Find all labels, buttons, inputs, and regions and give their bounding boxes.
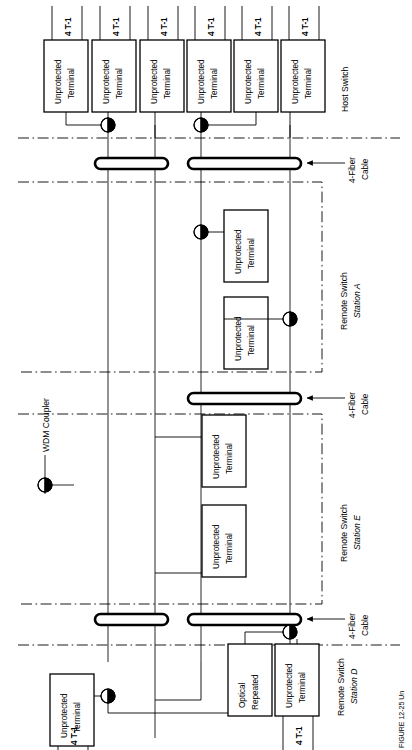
terminal-label-line1: Unprotected <box>212 524 221 569</box>
fiber-cable-3-capsule-right <box>188 614 301 625</box>
fiber-cable-3-capsule-left <box>95 614 168 625</box>
terminal-label-line2: Terminal <box>225 533 234 564</box>
terminal-label-line1: Unprotected <box>285 663 294 708</box>
terminal-label-line2: Terminal <box>257 68 266 99</box>
fiber-cable-1-group: 4-Fiber Cable <box>95 157 370 183</box>
station-d-label-line2: Station D <box>349 669 359 704</box>
tributary-label: 4 T-1 <box>254 17 263 36</box>
station-e-boundary <box>18 414 322 604</box>
tributary-label: 4 T-1 <box>64 17 73 36</box>
wdm-coupler-symbol <box>38 478 52 492</box>
wdm-coupler-station-d-2[interactable] <box>283 625 297 639</box>
terminal-label-line2: Terminal <box>225 443 234 474</box>
terminal-label-line1: Unprotected <box>291 59 300 104</box>
terminal-label-line1: Unprotected <box>244 59 253 104</box>
tributary-label: 4 T-1 <box>70 726 79 745</box>
terminal-station-a-2[interactable]: Unprotected Terminal <box>224 297 297 369</box>
wdm-coupler-host-1[interactable] <box>101 118 115 132</box>
cable-3-label-line2: Cable <box>361 614 370 636</box>
fiber-cable-capsule-left <box>95 158 168 169</box>
tributary-label: 4 T-1 <box>160 17 169 36</box>
terminal-host-4[interactable]: Unprotected Terminal 4 T-1 <box>187 6 231 120</box>
optical-repeater-label-line1: Optical <box>238 682 247 708</box>
cable-3-label-line1: 4-Fiber <box>348 613 357 639</box>
station-e-label-line2: Station E <box>352 515 362 550</box>
diagram-canvas: Unprotected Terminal 4 T-1 Unprotected T… <box>0 0 412 750</box>
tributary-station-d-1: 4 T-1 <box>70 726 79 745</box>
terminal-label-line1: Unprotected <box>150 59 159 104</box>
terminal-label-line1: Unprotected <box>102 59 111 104</box>
terminal-label-line2: Terminal <box>304 68 313 99</box>
terminal-station-a-1[interactable]: Unprotected Terminal <box>208 210 268 282</box>
station-e-group: Unprotected Terminal Unprotected Termina… <box>18 414 362 604</box>
cable-1-label-line1: 4-Fiber <box>348 157 357 183</box>
optical-repeater-label-line2: Repeated <box>251 674 260 710</box>
wdm-coupler-station-a-2[interactable] <box>283 312 297 326</box>
network-topology-svg: Unprotected Terminal 4 T-1 Unprotected T… <box>0 0 412 750</box>
terminal-host-6[interactable]: Unprotected Terminal 4 T-1 <box>281 6 325 138</box>
terminal-host-2[interactable]: Unprotected Terminal 4 T-1 <box>92 6 136 120</box>
host-switch-label: Host Switch <box>340 66 350 112</box>
station-d-group: Unprotected Terminal Optical Repeated Un… <box>50 625 359 750</box>
terminal-label-line1: Unprotected <box>212 434 221 479</box>
station-d-label-line1: Remote Switch <box>336 658 346 716</box>
station-a-group: Unprotected Terminal Unprotected Termina… <box>18 182 362 372</box>
cable-2-label-line2: Cable <box>361 393 370 415</box>
tributary-label: 4 T-1 <box>112 17 121 36</box>
terminal-station-d-2[interactable]: Unprotected Terminal 4 T-1 <box>275 639 319 750</box>
terminal-label-line2: Terminal <box>210 68 219 99</box>
wdm-coupler-station-a-1[interactable] <box>194 225 208 239</box>
tributary-label: 4 T-1 <box>301 17 310 36</box>
station-a-label-line1: Remote Switch <box>339 272 349 330</box>
terminal-label-line2: Terminal <box>247 325 256 356</box>
terminal-station-e-1[interactable]: Unprotected Terminal <box>155 415 246 487</box>
cable-2-label-line1: 4-Fiber <box>348 392 357 418</box>
wdm-coupler-host-2[interactable] <box>194 118 208 132</box>
terminal-label-line1: Unprotected <box>197 59 206 104</box>
tributary-label: 4 T-1 <box>295 726 304 745</box>
terminal-label-line1: Unprotected <box>54 59 63 104</box>
station-a-boundary <box>18 182 322 372</box>
terminal-label-line2: Terminal <box>163 68 172 99</box>
wdm-coupler-legend-label: WDM Coupler <box>41 398 51 452</box>
terminal-label-line1: Unprotected <box>234 229 243 274</box>
station-e-label-line1: Remote Switch <box>339 504 349 562</box>
cable-1-label-line2: Cable <box>361 158 370 180</box>
host-switch-group: Unprotected Terminal 4 T-1 Unprotected T… <box>44 6 350 138</box>
fiber-cable-2-capsule <box>188 393 301 404</box>
figure-caption: FIGURE 12-25 Un <box>398 691 405 748</box>
terminal-host-3[interactable]: Unprotected Terminal 4 T-1 <box>140 6 184 138</box>
terminal-label-line1: Unprotected <box>60 693 69 738</box>
fiber-cable-3-group: 4-Fiber Cable <box>95 613 370 639</box>
tributary-label: 4 T-1 <box>207 17 216 36</box>
terminal-label-line2: Terminal <box>115 68 124 99</box>
terminal-label-line1: Unprotected <box>234 316 243 361</box>
terminal-label-line2: Terminal <box>67 68 76 99</box>
wdm-coupler-station-d-1[interactable] <box>101 689 115 703</box>
wdm-coupler-legend: WDM Coupler <box>38 398 74 494</box>
terminal-label-line2: Terminal <box>298 672 307 703</box>
terminal-station-e-2[interactable]: Unprotected Terminal <box>155 505 246 577</box>
fiber-cable-capsule-right <box>188 158 301 169</box>
terminal-label-line2: Terminal <box>247 238 256 269</box>
station-a-label-line2: Station A <box>352 283 362 318</box>
